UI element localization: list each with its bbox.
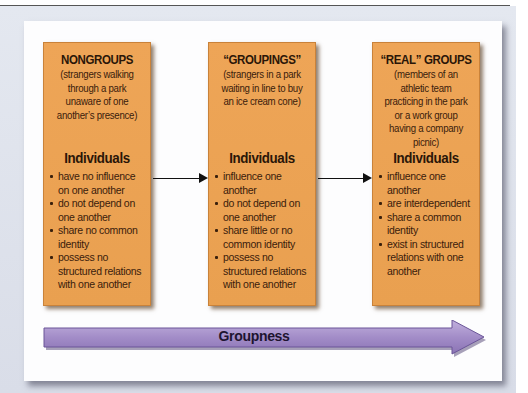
connector-arrow (153, 178, 206, 179)
trait-item: share no common identity (50, 224, 148, 251)
stage-description: (strangers walking through a park unawar… (48, 68, 146, 122)
stage-box-nongroups: NONGROUPS (strangers walking through a p… (43, 42, 151, 306)
trait-item: possess no structured relations with one… (50, 251, 148, 292)
trait-item: influence one another (379, 170, 477, 197)
stage-title: “GROUPINGS” (213, 53, 311, 67)
trait-item: do not depend on one another (50, 197, 148, 224)
trait-item: have no influence on one another (50, 170, 148, 197)
trait-item: exist in structured relations with one a… (379, 238, 477, 279)
trait-list: influence one another are interdependent… (379, 170, 477, 278)
stage-description: (members of an athletic team practicing … (377, 68, 475, 149)
stage-title: “REAL” GROUPS (377, 53, 475, 67)
groupness-axis: Groupness (42, 320, 486, 360)
trait-item: influence one another (215, 170, 313, 197)
trait-item: are interdependent (379, 197, 477, 211)
stage-subheading: Individuals (213, 150, 311, 166)
trait-item: share a common identity (379, 211, 477, 238)
arrow-right-icon (199, 173, 208, 183)
trait-list: influence one another do not depend on o… (215, 170, 313, 292)
stage-title: NONGROUPS (48, 53, 146, 67)
stage-description: (strangers in a park waiting in line to … (213, 68, 311, 109)
trait-list: have no influence on one another do not … (50, 170, 148, 292)
stage-box-groupings: “GROUPINGS” (strangers in a park waiting… (208, 42, 316, 306)
trait-item: do not depend on one another (215, 197, 313, 224)
connector-arrow (318, 178, 370, 179)
trait-item: share little or no common identity (215, 224, 313, 251)
stage-subheading: Individuals (48, 150, 146, 166)
trait-item: possess no structured relations with one… (215, 251, 313, 292)
groupness-label: Groupness (42, 328, 466, 344)
stage-box-real-groups: “REAL” GROUPS (members of an athletic te… (372, 42, 480, 306)
arrow-right-icon (363, 173, 372, 183)
stage-subheading: Individuals (377, 150, 475, 166)
